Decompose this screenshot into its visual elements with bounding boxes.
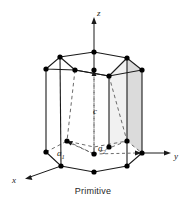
vector-label-c: c: [93, 107, 97, 116]
axis-label-y: y: [174, 152, 178, 161]
lattice-diagram-svg: [0, 0, 186, 204]
figure-caption: Primitive: [0, 186, 186, 196]
axis-x: [25, 166, 61, 180]
hexagonal-primitive-cell-figure: z y x c a1 a2 Primitive: [0, 0, 186, 204]
vector-label-a2: a2: [98, 144, 106, 155]
vector-label-a1-sub: 1: [62, 153, 65, 160]
axis-label-x: x: [12, 176, 16, 185]
axis-label-z: z: [97, 9, 101, 18]
vector-label-a1: a1: [57, 149, 65, 160]
vector-label-a2-sub: 2: [103, 148, 106, 155]
axis-z: [91, 17, 96, 70]
shaded-face-front-right: [109, 58, 127, 147]
axis-y: [142, 150, 171, 155]
